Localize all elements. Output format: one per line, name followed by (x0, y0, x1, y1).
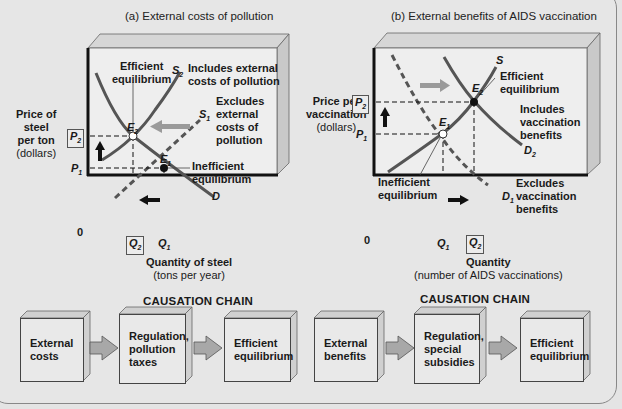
chain-arrow-2 (194, 336, 222, 360)
chain-arrow-4 (489, 336, 517, 360)
chain-arrow-3 (386, 336, 414, 360)
chain-arrow-1 (90, 336, 118, 360)
